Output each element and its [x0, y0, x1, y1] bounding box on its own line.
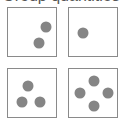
dot — [103, 88, 114, 99]
box-2 — [68, 7, 118, 57]
box-1 — [7, 7, 57, 57]
box-4 — [68, 68, 118, 118]
dot — [75, 88, 86, 99]
box-3 — [7, 68, 57, 118]
dot — [23, 81, 34, 92]
dot — [89, 101, 100, 112]
dot-groups-figure: Group quantities — [0, 0, 122, 123]
dot — [41, 22, 52, 33]
dot — [34, 38, 45, 49]
dot — [78, 28, 89, 39]
dot — [89, 76, 100, 87]
dot — [17, 97, 28, 108]
header-text: Group quantities — [0, 0, 122, 5]
dot — [35, 97, 46, 108]
